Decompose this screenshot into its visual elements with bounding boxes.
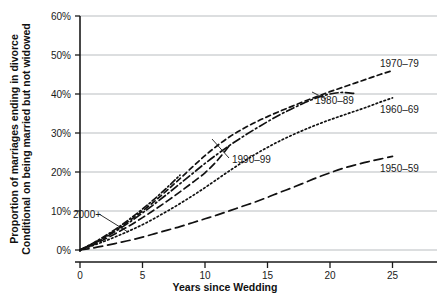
x-tick-label-15: 15 <box>262 270 274 281</box>
y-tick-label-60: 60% <box>51 11 71 22</box>
x-tick-label-20: 20 <box>324 270 336 281</box>
x-axis-title: Years since Wedding <box>173 281 278 293</box>
series-label-1960-69: 1960–69 <box>380 104 419 115</box>
chart-page: 0%10%20%30%40%50%60% 0510152025 1970–791… <box>0 0 437 302</box>
series-label-1980-89: 1980–89 <box>315 95 354 106</box>
y-axis-title-line2: Conditional on being married but not wid… <box>20 23 32 255</box>
chart-background <box>0 0 437 302</box>
x-tick-label-10: 10 <box>199 270 211 281</box>
x-tick-label-0: 0 <box>77 270 83 281</box>
y-tick-label-20: 20% <box>51 167 71 178</box>
series-label-2000-: 2000+ <box>73 209 101 220</box>
series-label-1950-59: 1950–59 <box>380 163 419 174</box>
series-label-1970-79: 1970–79 <box>380 58 419 69</box>
y-tick-label-30: 30% <box>51 128 71 139</box>
x-tick-label-25: 25 <box>387 270 399 281</box>
y-axis-title-line1: Proportion of marriages ending in divorc… <box>8 34 20 244</box>
y-tick-label-50: 50% <box>51 50 71 61</box>
divorce-proportion-line-chart: 0%10%20%30%40%50%60% 0510152025 1970–791… <box>0 0 437 302</box>
x-tick-label-5: 5 <box>140 270 146 281</box>
y-tick-label-0: 0% <box>57 245 72 256</box>
series-label-1990-99: 1990–99 <box>232 154 271 165</box>
y-tick-label-10: 10% <box>51 206 71 217</box>
y-tick-label-40: 40% <box>51 89 71 100</box>
